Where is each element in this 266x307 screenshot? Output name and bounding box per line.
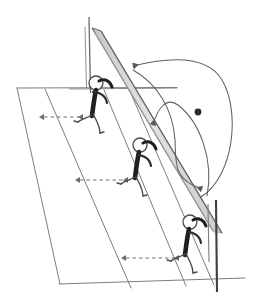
player-blocker-front [74, 76, 112, 133]
right-net-post [216, 200, 217, 292]
player-head [133, 138, 147, 152]
player-foot-back [117, 183, 121, 184]
player-leg-back [78, 115, 92, 122]
court-attack-line-left [45, 89, 131, 288]
ball-path-middle [153, 102, 209, 196]
player-foot-back [74, 121, 78, 122]
court-outline [17, 88, 245, 289]
volleyball-court-diagram [0, 0, 266, 307]
player-leg-back [121, 177, 135, 184]
left-post-brace [85, 27, 87, 88]
player-blocker-middle [117, 138, 156, 196]
net-band [92, 28, 222, 234]
player-foot-back [167, 260, 171, 261]
player-torso [92, 90, 96, 116]
player-leg-front [186, 254, 193, 273]
player-blocker-back [167, 215, 206, 273]
net-posts [85, 17, 217, 292]
player-leg-front [93, 114, 100, 133]
court-attack-line-mid [104, 90, 186, 286]
ball-marker [195, 109, 202, 116]
diagram-canvas [0, 0, 266, 307]
player-head [183, 215, 197, 229]
